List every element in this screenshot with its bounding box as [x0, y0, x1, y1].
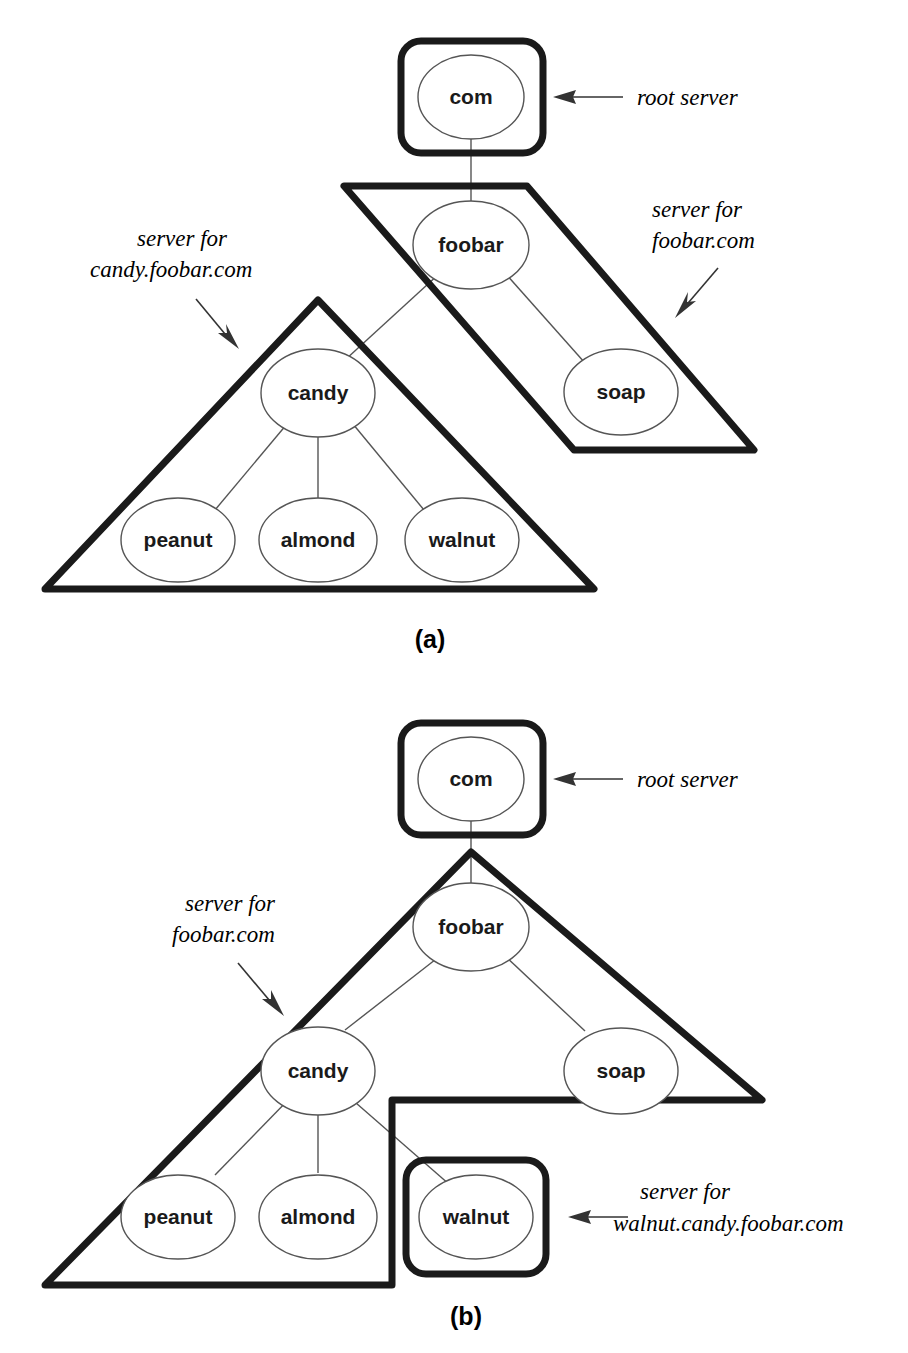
node-foobar-b[interactable]: foobar: [413, 883, 529, 971]
annotation-root-server-a: root server: [553, 85, 739, 110]
node-walnut-a[interactable]: walnut: [405, 498, 519, 582]
node-peanut-a-label: peanut: [144, 528, 213, 551]
node-com-b[interactable]: com: [418, 737, 524, 821]
edge-candy-walnut-b: [348, 1096, 450, 1185]
panel-a: com foobar soap candy peanut almond: [45, 41, 755, 653]
node-walnut-b[interactable]: walnut: [419, 1175, 533, 1259]
node-peanut-a[interactable]: peanut: [121, 498, 235, 582]
annotation-candy-foobar-com-a-line2: candy.foobar.com: [90, 257, 252, 282]
panel-b: com foobar soap candy peanut almond: [45, 723, 844, 1330]
annotation-foobar-com-b-line1: server for: [185, 891, 276, 916]
node-com-a[interactable]: com: [418, 55, 524, 139]
annotation-walnut-candy-foobar-com-b: server for walnut.candy.foobar.com: [568, 1179, 844, 1236]
edge-foobar-soap-b: [505, 956, 585, 1031]
edge-candy-walnut: [348, 418, 424, 510]
annotation-candy-foobar-com-a-line1: server for: [137, 226, 228, 251]
region-foobar-com-a: [344, 186, 754, 450]
panel-b-caption: (b): [450, 1302, 482, 1330]
node-soap-b-label: soap: [596, 1059, 645, 1082]
annotation-candy-foobar-com-a: server for candy.foobar.com: [90, 226, 252, 349]
panel-a-caption: (a): [415, 625, 446, 653]
annotation-walnut-b-line2: walnut.candy.foobar.com: [613, 1211, 844, 1236]
annotation-foobar-com-a-line2: foobar.com: [652, 228, 755, 253]
node-candy-a-label: candy: [288, 381, 349, 404]
node-candy-b[interactable]: candy: [261, 1027, 375, 1115]
annotation-walnut-b-line1: server for: [640, 1179, 731, 1204]
node-peanut-b-label: peanut: [144, 1205, 213, 1228]
annotation-root-server-b-text: root server: [637, 767, 739, 792]
node-foobar-b-label: foobar: [438, 915, 503, 938]
node-almond-b-label: almond: [281, 1205, 356, 1228]
annotation-root-server-a-text: root server: [637, 85, 739, 110]
node-walnut-b-label: walnut: [442, 1205, 510, 1228]
annotation-foobar-com-a-line1: server for: [652, 197, 743, 222]
node-walnut-a-label: walnut: [428, 528, 496, 551]
node-peanut-b[interactable]: peanut: [121, 1175, 235, 1259]
node-soap-a[interactable]: soap: [564, 349, 678, 435]
node-com-b-label: com: [449, 767, 492, 790]
annotation-foobar-com-b: server for foobar.com: [172, 891, 284, 1016]
node-almond-b[interactable]: almond: [259, 1175, 377, 1259]
node-almond-a[interactable]: almond: [259, 498, 377, 582]
node-candy-b-label: candy: [288, 1059, 349, 1082]
node-com-a-label: com: [449, 85, 492, 108]
node-candy-a[interactable]: candy: [261, 349, 375, 437]
node-almond-a-label: almond: [281, 528, 356, 551]
annotation-foobar-com-b-line2: foobar.com: [172, 922, 275, 947]
edge-candy-peanut: [215, 418, 292, 510]
panel-b-edges: [215, 805, 585, 1185]
annotation-foobar-com-a: server for foobar.com: [652, 197, 755, 318]
edge-foobar-soap: [505, 273, 585, 363]
node-soap-a-label: soap: [596, 380, 645, 403]
node-soap-b[interactable]: soap: [564, 1028, 678, 1114]
node-foobar-a-label: foobar: [438, 233, 503, 256]
dns-delegation-figure: com foobar soap candy peanut almond: [0, 0, 908, 1353]
panel-a-edges: [215, 123, 585, 510]
annotation-root-server-b: root server: [553, 767, 739, 792]
node-foobar-a[interactable]: foobar: [413, 201, 529, 289]
edge-candy-peanut-b: [215, 1096, 292, 1175]
